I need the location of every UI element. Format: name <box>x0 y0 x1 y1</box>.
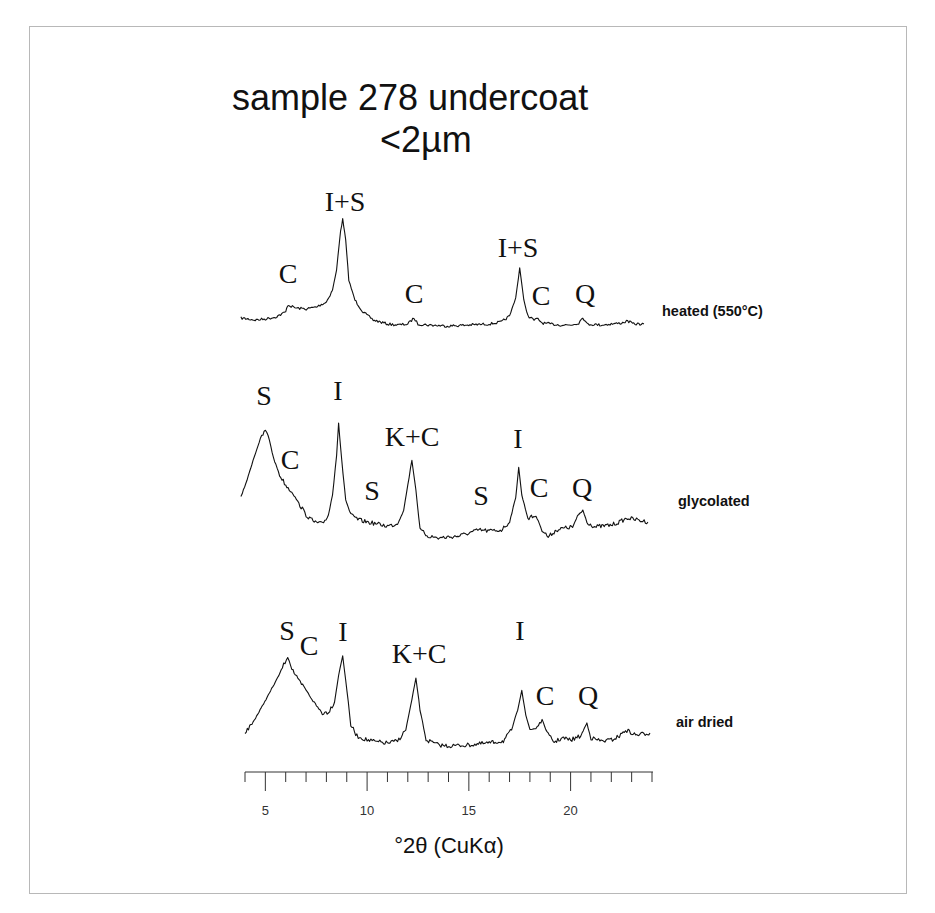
tick-label: 20 <box>563 803 577 818</box>
peak-labels: CI+SCI+SCQSCISK+CSICQSCIK+CICQ <box>256 186 598 711</box>
x-axis-ticks <box>245 772 652 791</box>
peak-label: Q <box>575 278 595 309</box>
peak-label: I <box>338 616 347 647</box>
peak-label: K+C <box>392 638 447 669</box>
peak-label: C <box>405 278 424 309</box>
xrd-chart: CI+SCI+SCQSCISK+CSICQSCIK+CICQ heated (5… <box>0 0 935 913</box>
series-label: glycolated <box>678 493 750 509</box>
peak-label: C <box>530 472 549 503</box>
peak-label: S <box>279 615 295 646</box>
trace-heated <box>241 219 644 328</box>
peak-label: Q <box>578 680 598 711</box>
peak-label: C <box>532 280 551 311</box>
peak-label: C <box>300 630 319 661</box>
peak-label: C <box>279 258 298 289</box>
tick-label: 5 <box>262 803 269 818</box>
series-label: air dried <box>676 714 733 730</box>
peak-label: I+S <box>498 232 539 263</box>
x-axis-tick-labels: 5101520 <box>262 803 578 818</box>
peak-label: C <box>536 680 555 711</box>
series-label: heated (550°C) <box>662 303 763 319</box>
series-labels: heated (550°C)glycolatedair dried <box>662 303 763 730</box>
tick-label: 15 <box>462 803 476 818</box>
x-axis: 5101520 °2θ (CuKα) <box>245 772 653 858</box>
peak-label: I <box>513 423 522 454</box>
peak-label: S <box>473 480 489 511</box>
peak-label: I <box>333 375 342 406</box>
peak-label: K+C <box>385 421 440 452</box>
peak-label: I+S <box>325 186 366 217</box>
peak-label: Q <box>572 472 592 503</box>
peak-label: S <box>256 380 272 411</box>
tick-label: 10 <box>360 803 374 818</box>
peak-label: S <box>364 475 380 506</box>
peak-label: C <box>281 444 300 475</box>
peak-label: I <box>515 615 524 646</box>
x-axis-title: °2θ (CuKα) <box>394 833 504 858</box>
